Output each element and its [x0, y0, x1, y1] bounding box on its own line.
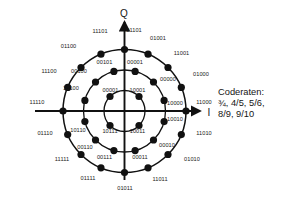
point-label-01001: 01001 [150, 36, 166, 42]
constellation-point [182, 107, 189, 114]
constellation-point [135, 93, 142, 100]
constellation-point [81, 97, 88, 104]
point-label-00011: 00011 [132, 155, 148, 161]
constellation-point [150, 136, 157, 143]
point-label-11010: 11010 [196, 131, 212, 137]
constellation-point [144, 164, 151, 171]
point-label-01111: 01111 [81, 176, 96, 182]
point-label-10110: 10110 [70, 128, 86, 134]
constellation-point [97, 164, 104, 171]
constellation-point [106, 93, 113, 100]
coderates-title: Coderaten: [218, 87, 265, 98]
constellation-point [59, 107, 66, 114]
point-label-00100: 00100 [71, 69, 87, 75]
constellation-figure: 1000100001100111011110000000000000100101… [0, 0, 284, 206]
point-label-10111: 10111 [102, 129, 117, 135]
point-label-11101: 11101 [92, 29, 107, 35]
point-label-11100: 11100 [41, 69, 56, 75]
point-label-01100: 01100 [61, 44, 77, 50]
point-label-01101: 01101 [126, 28, 142, 34]
point-label-10001: 10001 [129, 88, 145, 94]
constellation-point [97, 51, 104, 58]
coderates-block: Coderaten: ¾, 4/5, 5/6, 8/9, 9/10 [218, 87, 265, 121]
point-label-00111: 00111 [97, 155, 112, 161]
point-label-01010: 01010 [184, 157, 200, 163]
constellation-point [110, 68, 117, 75]
constellation-point [92, 136, 99, 143]
point-label-10100: 10100 [63, 86, 79, 92]
constellation-point [164, 64, 171, 71]
constellation-point [132, 68, 139, 75]
constellation-point [92, 78, 99, 85]
point-label-11001: 11001 [174, 51, 190, 57]
constellation-point [144, 51, 151, 58]
point-label-11000: 11000 [196, 100, 212, 106]
constellation-point [77, 151, 84, 158]
constellation-point [121, 169, 128, 176]
point-label-00101: 00101 [96, 60, 112, 66]
point-label-10010: 10010 [167, 117, 183, 123]
axis-label-q: Q [120, 8, 128, 19]
constellation-point [178, 84, 185, 91]
constellation-point [81, 118, 88, 125]
point-label-00110: 00110 [77, 145, 93, 151]
point-label-00001: 00001 [127, 60, 143, 66]
point-label-11111: 11111 [55, 157, 69, 163]
constellation-point [178, 131, 185, 138]
coderates-line-2: 8/9, 9/10 [218, 109, 265, 120]
point-label-11011: 11011 [152, 177, 167, 183]
point-label-01011: 01011 [117, 186, 133, 192]
point-label-11110: 11110 [30, 100, 45, 106]
axis-label-i: I [208, 107, 211, 118]
constellation-point [164, 151, 171, 158]
point-label-00001: 00001 [102, 88, 118, 94]
point-label-10011: 10011 [130, 129, 146, 135]
point-label-10000: 10000 [167, 101, 183, 107]
point-label-00000: 00000 [160, 77, 176, 83]
point-label-01110: 01110 [37, 131, 52, 137]
coderates-line-1: ¾, 4/5, 5/6, [218, 98, 265, 109]
constellation-point [150, 78, 157, 85]
constellation-point [121, 46, 128, 53]
point-label-00010: 00010 [159, 143, 175, 149]
point-label-01000: 01000 [193, 72, 209, 78]
